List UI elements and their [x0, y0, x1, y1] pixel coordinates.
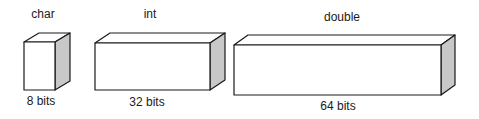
double-box-side-face — [441, 35, 455, 95]
int-size-label: 32 bits — [129, 95, 164, 109]
double-box-front-face — [234, 45, 441, 95]
double-type-label: double — [324, 10, 360, 24]
char-box-front-face — [24, 42, 55, 90]
char-box — [24, 33, 70, 90]
double-box-top-face — [234, 35, 455, 45]
int-box-front-face — [95, 43, 210, 90]
char-type-label: char — [31, 7, 54, 21]
int-type-label: int — [144, 7, 157, 21]
char-box-side-face — [55, 33, 70, 90]
int-box-side-face — [210, 33, 225, 90]
double-box — [234, 35, 455, 95]
char-size-label: 8 bits — [27, 94, 56, 108]
int-box-top-face — [95, 33, 225, 43]
data-type-boxes-diagram — [0, 0, 479, 119]
int-box — [95, 33, 225, 90]
double-size-label: 64 bits — [320, 99, 355, 113]
